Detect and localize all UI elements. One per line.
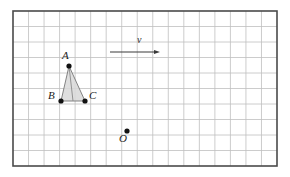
vertex-label-a: A: [61, 49, 69, 61]
vertex-dot-c: [82, 98, 87, 103]
figure-canvas: A B C O v: [0, 0, 290, 177]
vertex-label-b: B: [48, 89, 55, 101]
vertex-label-c: C: [89, 89, 97, 101]
point-o-label: O: [119, 132, 127, 144]
geometry-figure: A B C O v: [0, 0, 290, 177]
vertex-dot-b: [58, 98, 63, 103]
vector-v-label: v: [137, 34, 142, 45]
vertex-dot-a: [66, 63, 71, 68]
